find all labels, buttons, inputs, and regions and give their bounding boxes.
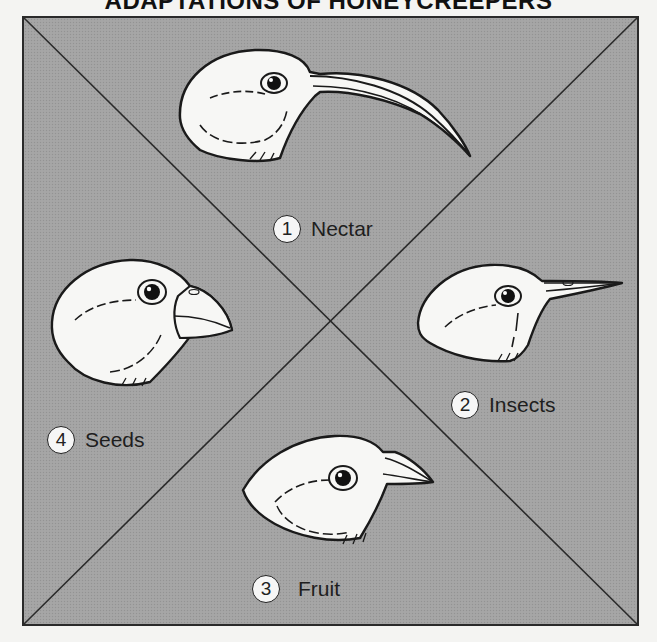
fruit-bird-head-icon: [235, 420, 440, 550]
quadrant-label-seeds: 4 Seeds: [47, 426, 145, 454]
number-badge: 1: [273, 215, 301, 243]
label-text: Seeds: [85, 428, 145, 452]
label-text: Fruit: [298, 577, 340, 601]
quadrant-label-insects: 2 Insects: [451, 391, 556, 419]
number-badge: 3: [252, 575, 280, 603]
nectar-bird-head-icon: [170, 40, 480, 170]
label-text: Nectar: [311, 217, 373, 241]
quadrant-label-nectar: 1 Nectar: [273, 215, 373, 243]
quadrant-label-fruit: 3 Fruit: [252, 575, 340, 603]
number-badge: 2: [451, 391, 479, 419]
honeycreeper-diagram: ADAPTATIONS OF HONEYCREEPERS: [0, 0, 657, 642]
insects-bird-head-icon: [410, 255, 630, 370]
number-badge: 4: [47, 426, 75, 454]
diagram-title: ADAPTATIONS OF HONEYCREEPERS: [0, 0, 657, 15]
seeds-bird-head-icon: [40, 250, 240, 395]
label-text: Insects: [489, 393, 556, 417]
